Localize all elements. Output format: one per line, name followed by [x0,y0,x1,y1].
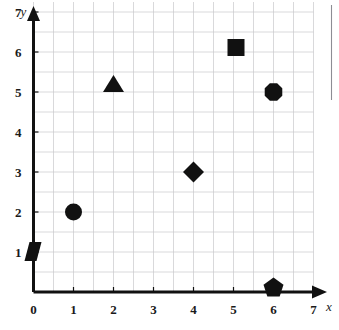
x-tick-label: 3 [150,302,157,317]
y-axis-label: y [19,4,27,19]
x-tick-label: 2 [110,302,117,317]
octagon-marker[interactable] [265,83,283,101]
x-axis-arrowhead [312,286,327,299]
y-tick-label: 3 [15,165,22,180]
x-tick-label: 1 [70,302,77,317]
grid-lines [34,2,314,292]
x-axis-label: x [325,299,332,314]
pentagon-marker[interactable] [264,278,284,297]
y-tick-label: 2 [15,205,22,220]
y-tick-label: 6 [15,45,22,60]
x-tick-label: 0 [30,302,37,317]
axis-names: yx [19,4,333,314]
x-tick-label: 5 [230,302,237,317]
x-tick-label: 7 [310,302,317,317]
triangle-marker[interactable] [103,75,124,92]
circle-marker[interactable] [65,204,82,221]
data-points [25,39,284,296]
y-tick-label: 4 [15,125,22,140]
scatter-plot: 123456701234567yx [0,0,339,330]
diamond-marker[interactable] [183,162,204,183]
rhombus-marker[interactable] [25,242,42,261]
y-axis-arrowhead [27,6,40,21]
y-tick-label: 1 [15,245,22,260]
square-marker[interactable] [228,39,245,56]
y-tick-label: 5 [15,85,22,100]
x-tick-label: 4 [190,302,197,317]
chart-canvas: 123456701234567yx [0,0,339,330]
x-tick-label: 6 [270,302,277,317]
